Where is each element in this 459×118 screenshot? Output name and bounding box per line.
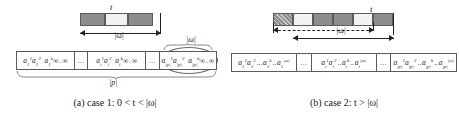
cell-a-1-k: a1k [45,57,53,65]
cell-a-p-k: a|p|k [188,57,199,65]
cell-b-1-w: a1|ω| [277,59,290,67]
strip-block-light-1 [293,13,313,26]
strip-block-dark-2 [333,13,353,26]
cell-group-ellipsis-b1: ... [297,54,312,71]
strip-block-dark-1 [80,13,105,26]
cell-a-i-1: ai1 [96,57,104,65]
cell-table-panel-a: a11a12 a1k∞.∞ ... ai1ai2 aik∞.∞ ... a|p|… [16,51,217,70]
cell-inf-ai-2: ∞ [132,56,137,65]
cell-b-1-2: a12 [247,59,256,67]
cell-b-p-1: a|p|1 [393,59,405,67]
cell-a-p-1: a|p|1 [162,57,174,65]
panel-case-2: t |ω| a11a12...a1k..a1|ω| [229,0,459,118]
label-omega-strip-panel-a: |ω| [114,32,124,40]
cell-group-first-b: a11a12...a1k..a1|ω| [232,54,297,71]
cell-dots-b1: ... [256,59,263,67]
figure-root: t |ω| |ω| a11a12 a1k∞.∞ [0,0,459,118]
cell-group-last-b: a|p|1a|p|2..a|p|k..a|p||ω| [391,54,456,71]
label-p-panel-a: |p| [109,79,117,87]
cell-group-ellipsis-a1: ... [75,52,88,69]
cell-b-p-w: a|p||ω| [439,59,454,67]
cell-b-1-k: a1k [263,59,271,67]
cell-b-i-2: ai2 [329,59,337,67]
cell-a-1-1: a11 [23,57,32,65]
caption-panel-b: (b) case 2: t > |ω| [229,98,459,108]
label-omega-strip-panel-b: |ω| [336,27,346,35]
cell-group-last-a: a|p|1a|p|2 a|p|k∞.∞ [160,52,216,69]
strip-block-hatch-1 [273,13,293,26]
cell-a-i-k: aik [115,57,122,65]
cell-inf-ap-2: ∞ [209,56,214,65]
cell-b-p-2: a|p|2 [405,59,417,67]
cell-group-middle-b: ai1ai2..aik..ai|ω| [312,54,377,71]
cell-group-ellipsis-a2: ... [146,52,159,69]
panel-case-1: t |ω| |ω| a11a12 a1k∞.∞ [0,0,230,118]
cell-group-ellipsis-b2: ... [377,54,392,71]
caption-panel-a: (a) case 1: 0 < t < |ω| [0,98,230,108]
label-t-panel-a: t [110,3,112,12]
strip-block-dark-2 [128,13,153,26]
strip-block-dark-1 [313,13,333,26]
cell-b-i-1: ai1 [321,59,329,67]
measure-tick-right-b [393,13,394,35]
cell-table-panel-b: a11a12...a1k..a1|ω| ... ai1ai2..aik..ai|… [231,53,457,72]
omega-measure-arrow-panel-b [293,34,394,43]
cell-a-i-2: ai2 [104,57,112,65]
cell-b-i-k: aik [342,59,349,67]
cell-group-middle-a: ai1ai2 aik∞.∞ [88,52,146,69]
cell-b-1-1: a11 [238,59,247,67]
block-strip-panel-a [80,13,153,26]
cell-a-1-2: a12 [32,57,41,65]
cell-a-p-2: a|p|2 [173,57,185,65]
block-strip-panel-b [273,13,393,26]
cell-b-i-w: ai|ω| [355,59,366,67]
cell-b-p-k: a|p|k [422,59,433,67]
strip-block-light-2 [353,13,373,26]
label-omega-table-panel-a: |ω| [186,36,196,44]
cell-group-first-a: a11a12 a1k∞.∞ [17,52,75,69]
strip-block-light-1 [105,13,128,26]
strip-block-dark-3 [373,13,393,26]
cell-inf-a1-2: ∞ [62,56,67,65]
